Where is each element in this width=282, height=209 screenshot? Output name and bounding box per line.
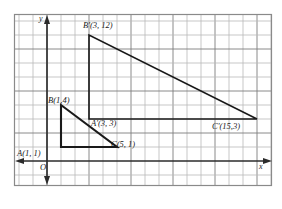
point-label-c-prime: C'(15,3): [212, 122, 240, 131]
coordinate-geometry-figure: B'(3, 12) B(1,4) A'(3, 3) C'(15,3) C(5, …: [0, 0, 282, 209]
point-label-b: B(1,4): [48, 96, 69, 105]
point-label-a-prime: A'(3, 3): [91, 119, 116, 128]
point-label-c: C(5, 1): [111, 140, 135, 149]
point-label-a: A(1, 1): [17, 149, 41, 158]
point-label-b-prime: B'(3, 12): [83, 21, 113, 30]
origin-label: O: [40, 163, 46, 172]
graph-canvas: [0, 0, 282, 209]
x-axis-label: x: [259, 163, 263, 171]
y-axis-label: y: [39, 15, 43, 23]
page-background: [0, 0, 282, 209]
